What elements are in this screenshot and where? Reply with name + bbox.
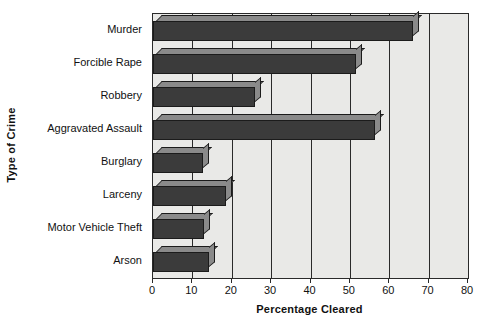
x-tick-label: 30 — [250, 284, 290, 296]
bar-row — [153, 146, 468, 179]
x-tick-label: 80 — [447, 284, 487, 296]
bar-side-face — [356, 43, 362, 68]
bar-side-face — [413, 10, 419, 35]
category-label-forcible-rape: Forcible Rape — [24, 46, 148, 79]
category-label-arson: Arson — [24, 244, 148, 277]
x-tick — [388, 278, 389, 283]
y-axis-title-text: Type of Crime — [5, 107, 17, 182]
x-tick — [191, 278, 192, 283]
bar-burglary — [153, 153, 203, 173]
y-axis-title: Type of Crime — [0, 0, 22, 290]
bar-motor-vehicle-theft — [153, 219, 204, 239]
bar-larceny — [153, 186, 226, 206]
x-tick — [349, 278, 350, 283]
x-tick-label: 70 — [408, 284, 448, 296]
x-tick-label: 0 — [132, 284, 172, 296]
x-tick-label: 20 — [211, 284, 251, 296]
bar-arson — [153, 252, 209, 272]
x-tick — [270, 278, 271, 283]
bar-row — [153, 80, 468, 113]
bar-front-face — [153, 219, 204, 239]
bar-front-face — [153, 252, 209, 272]
bar-front-face — [153, 87, 255, 107]
bar-front-face — [153, 120, 375, 140]
x-tick — [310, 278, 311, 283]
bar-front-face — [153, 54, 356, 74]
bar-front-face — [153, 153, 203, 173]
bar-row — [153, 212, 468, 245]
bar-murder — [153, 21, 413, 41]
bar-row — [153, 47, 468, 80]
category-label-murder: Murder — [24, 13, 148, 46]
category-axis-labels: Murder Forcible Rape Robbery Aggravated … — [24, 13, 148, 277]
plot-area — [152, 13, 469, 279]
x-tick-label: 40 — [290, 284, 330, 296]
bar-side-face — [375, 109, 381, 134]
bar-row — [153, 179, 468, 212]
x-axis-title: Percentage Cleared — [152, 303, 467, 315]
category-label-motor-vehicle-theft: Motor Vehicle Theft — [24, 211, 148, 244]
bar-side-face — [204, 208, 210, 233]
bar-row — [153, 245, 468, 278]
bar-front-face — [153, 186, 226, 206]
x-tick-label: 50 — [329, 284, 369, 296]
x-tick — [428, 278, 429, 283]
x-tick — [467, 278, 468, 283]
bar-row — [153, 14, 468, 47]
x-tick — [152, 278, 153, 283]
x-tick-label: 60 — [368, 284, 408, 296]
x-tick-label: 10 — [171, 284, 211, 296]
category-label-larceny: Larceny — [24, 178, 148, 211]
category-label-burglary: Burglary — [24, 145, 148, 178]
x-axis-tick-labels: 01020304050607080 — [132, 284, 487, 300]
bar-side-face — [203, 142, 209, 167]
bar-row — [153, 113, 468, 146]
category-label-robbery: Robbery — [24, 79, 148, 112]
bar-side-face — [209, 241, 215, 266]
bar-side-face — [226, 175, 232, 200]
bar-forcible-rape — [153, 54, 356, 74]
x-tick — [231, 278, 232, 283]
category-label-aggravated-assault: Aggravated Assault — [24, 112, 148, 145]
bar-chart: Type of Crime Murder Forcible Rape Robbe… — [0, 0, 496, 328]
bar-front-face — [153, 21, 413, 41]
bar-aggravated-assault — [153, 120, 375, 140]
bars-layer — [153, 14, 468, 278]
bar-side-face — [255, 76, 261, 101]
bar-robbery — [153, 87, 255, 107]
